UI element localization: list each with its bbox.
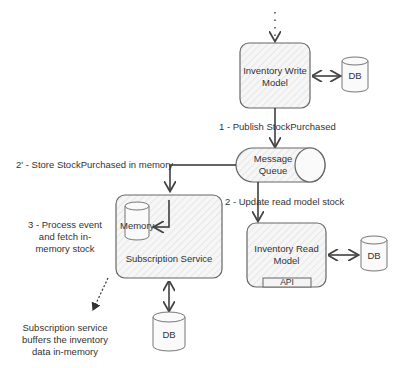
- buffer-annotation-arrow: [93, 278, 108, 310]
- buffer-line2: buffers the inventory: [15, 334, 115, 346]
- diagram-canvas: [0, 0, 402, 368]
- write-model-line1: Inventory Write: [240, 65, 310, 77]
- process-annotation: 3 - Process event and fetch in- memory s…: [20, 219, 110, 255]
- queue-line1: Message: [238, 153, 308, 165]
- queue-label: Message Queue: [238, 153, 308, 177]
- api-label: API: [263, 276, 311, 288]
- read-model-label: Inventory Read Model: [247, 243, 326, 267]
- buffer-annotation: Subscription service buffers the invento…: [15, 322, 115, 358]
- write-db-label: DB: [342, 70, 368, 82]
- process-line3: memory stock: [20, 243, 110, 255]
- store-memory-arrow: [170, 165, 236, 190]
- buffer-line3: data in-memory: [15, 346, 115, 358]
- read-model-line1: Inventory Read: [247, 243, 326, 255]
- queue-line2: Queue: [238, 165, 308, 177]
- buffer-line1: Subscription service: [15, 322, 115, 334]
- publish-label: 1 - Publish StockPurchased: [219, 121, 336, 133]
- process-line2: and fetch in-: [20, 231, 110, 243]
- read-model-line2: Model: [247, 255, 326, 267]
- read-db-label: DB: [361, 250, 387, 262]
- write-model-label: Inventory Write Model: [240, 65, 310, 89]
- store-memory-label: 2' - Store StockPurchased in memory: [16, 159, 173, 171]
- process-line1: 3 - Process event: [20, 219, 110, 231]
- subscription-service-label: Subscription Service: [116, 253, 222, 265]
- memory-label: Memory: [120, 220, 154, 232]
- write-model-line2: Model: [240, 77, 310, 89]
- subscription-db-label: DB: [153, 329, 185, 341]
- update-read-label: 2 - Update read model stock: [225, 196, 344, 208]
